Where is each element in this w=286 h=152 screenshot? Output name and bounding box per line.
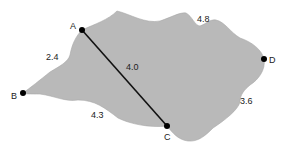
segment-label-ac: 4.0 — [126, 62, 139, 72]
point-c-label: C — [164, 132, 171, 142]
point-c-marker — [164, 123, 170, 129]
edge-label-ad: 4.8 — [197, 14, 210, 24]
irregular-region — [23, 11, 264, 141]
edge-label-cd: 3.6 — [240, 96, 253, 106]
point-a-label: A — [70, 21, 76, 31]
point-d-marker — [261, 56, 267, 62]
point-b-label: B — [11, 91, 17, 101]
point-d-label: D — [269, 55, 276, 65]
point-b-marker — [20, 90, 26, 96]
edge-label-bc: 4.3 — [91, 110, 104, 120]
edge-label-ab: 2.4 — [46, 52, 59, 62]
point-a-marker — [79, 27, 85, 33]
diagram-canvas — [0, 0, 286, 152]
